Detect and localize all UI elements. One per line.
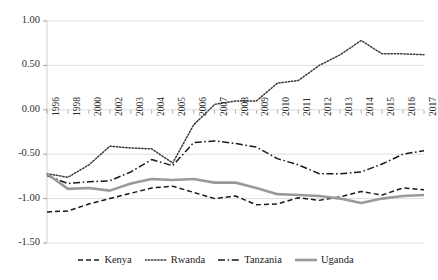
legend-label: Tanzania xyxy=(244,254,282,265)
legend-key-icon xyxy=(78,255,100,264)
series-line-tanzania xyxy=(47,141,424,184)
x-tick-label: 2007 xyxy=(219,97,229,116)
y-tick-label: -0.50 xyxy=(0,147,40,158)
x-tick-label: 2014 xyxy=(365,97,375,116)
x-tick-label: 2002 xyxy=(114,97,124,116)
gridlines xyxy=(47,21,424,243)
x-tick-label: 2003 xyxy=(135,97,145,116)
legend-key-icon xyxy=(218,255,240,264)
y-tick-label: 0.50 xyxy=(0,58,40,69)
x-tick-label: 2016 xyxy=(407,97,417,116)
axis-ticks xyxy=(43,21,424,243)
y-tick-label: -1.50 xyxy=(0,236,40,247)
x-tick-label: 1996 xyxy=(51,97,61,116)
x-tick-label: 2008 xyxy=(240,97,250,116)
x-tick-label: 2017 xyxy=(428,97,438,116)
x-tick-label: 1998 xyxy=(72,97,82,116)
y-tick-label: 0.00 xyxy=(0,103,40,114)
legend-key-icon xyxy=(145,255,167,264)
y-tick-label: 1.00 xyxy=(0,14,40,25)
x-tick-label: 2012 xyxy=(323,97,333,116)
legend-key-icon xyxy=(295,255,317,264)
legend-item-rwanda[interactable]: Rwanda xyxy=(145,254,205,265)
x-tick-label: 2011 xyxy=(302,97,312,116)
y-tick-label: -1.00 xyxy=(0,192,40,203)
chart-legend: KenyaRwandaTanzaniaUganda xyxy=(0,254,432,265)
legend-item-tanzania[interactable]: Tanzania xyxy=(218,254,282,265)
legend-label: Rwanda xyxy=(171,254,205,265)
x-tick-label: 2000 xyxy=(93,97,103,116)
legend-label: Kenya xyxy=(104,254,131,265)
legend-item-kenya[interactable]: Kenya xyxy=(78,254,131,265)
x-tick-label: 2005 xyxy=(177,97,187,116)
data-series-group xyxy=(47,41,424,212)
x-tick-label: 2006 xyxy=(198,97,208,116)
x-tick-label: 2013 xyxy=(344,97,354,116)
legend-label: Uganda xyxy=(321,254,354,265)
x-tick-label: 2015 xyxy=(386,97,396,116)
x-tick-label: 2010 xyxy=(281,97,291,116)
x-tick-label: 2004 xyxy=(156,97,166,116)
x-tick-label: 2009 xyxy=(260,97,270,116)
legend-item-uganda[interactable]: Uganda xyxy=(295,254,354,265)
